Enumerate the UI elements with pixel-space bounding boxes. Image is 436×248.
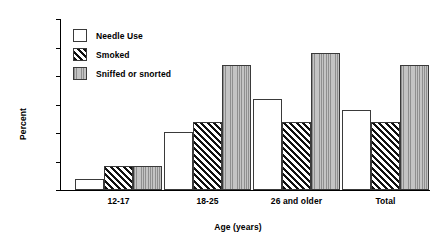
bar-group bbox=[342, 19, 429, 190]
y-axis-tick-mark bbox=[56, 162, 60, 163]
y-axis-tick-mark bbox=[56, 48, 60, 49]
bar bbox=[104, 166, 133, 190]
x-axis-category-label: 12-17 bbox=[75, 196, 162, 206]
bar bbox=[342, 110, 371, 190]
x-axis-category-label: 18-25 bbox=[164, 196, 251, 206]
legend-swatch-needle-use-icon bbox=[73, 29, 87, 42]
bar bbox=[75, 179, 104, 190]
legend-swatch-smoked-icon bbox=[73, 48, 87, 61]
chart-legend: Needle Use Smoked Sniffed or snorted bbox=[73, 26, 171, 83]
legend-label-needle-use: Needle Use bbox=[96, 31, 143, 41]
bar bbox=[222, 65, 251, 190]
bar-chart-figure: Percent Age (years) 1.501.251.000.750.50… bbox=[0, 0, 436, 248]
bar bbox=[400, 65, 429, 190]
y-axis-tick-mark bbox=[56, 19, 60, 20]
bar bbox=[253, 99, 282, 190]
y-axis-tick-mark bbox=[56, 105, 60, 106]
x-axis-title: Age (years) bbox=[60, 222, 416, 232]
bar bbox=[193, 122, 222, 190]
legend-label-smoked: Smoked bbox=[96, 50, 130, 60]
x-axis-category-label: 26 and older bbox=[253, 196, 340, 206]
bar bbox=[311, 53, 340, 190]
y-axis-title: Percent bbox=[14, 0, 32, 248]
bar-group bbox=[253, 19, 340, 190]
bar bbox=[133, 166, 162, 190]
bar bbox=[282, 122, 311, 190]
legend-item-sniffed-or-snorted: Sniffed or snorted bbox=[73, 64, 171, 83]
y-axis-tick-mark bbox=[56, 76, 60, 77]
legend-item-smoked: Smoked bbox=[73, 45, 171, 64]
legend-swatch-sniffed-or-snorted-icon bbox=[73, 67, 87, 80]
y-axis-tick-mark bbox=[56, 190, 60, 191]
bar bbox=[371, 122, 400, 190]
bar-group bbox=[164, 19, 251, 190]
legend-item-needle-use: Needle Use bbox=[73, 26, 171, 45]
bar bbox=[164, 132, 193, 190]
legend-label-sniffed-or-snorted: Sniffed or snorted bbox=[96, 69, 171, 79]
x-axis-line bbox=[60, 190, 430, 191]
x-axis-category-label: Total bbox=[342, 196, 429, 206]
y-axis-tick-mark bbox=[56, 133, 60, 134]
